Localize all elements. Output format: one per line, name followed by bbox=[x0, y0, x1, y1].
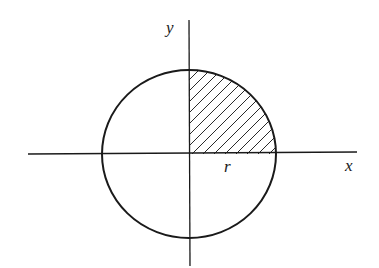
y-axis bbox=[189, 20, 190, 266]
hatched-quadrant bbox=[189, 70, 353, 154]
y-axis-label: y bbox=[166, 19, 174, 36]
radius-label: r bbox=[224, 158, 231, 175]
x-axis-label: x bbox=[345, 157, 353, 174]
circle-diagram bbox=[0, 0, 379, 268]
